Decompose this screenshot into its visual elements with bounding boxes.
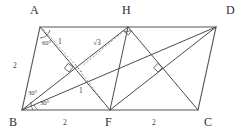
angle-label-hbf: 30° — [40, 100, 49, 107]
vertex-label-f: F — [105, 116, 112, 128]
right-angle-mark-h-cap — [124, 31, 131, 32]
measure-label-perp-a: 1 — [58, 38, 62, 46]
vertex-label-d: D — [226, 4, 235, 16]
geometry-figure: A D B C H F 2 2 2 1 1 √3 60° 30° 30° — [0, 0, 244, 137]
measure-label-perp-f: 1 — [79, 87, 83, 95]
vertex-label-a: A — [30, 4, 39, 16]
angle-arc-b-lower — [34, 105, 38, 110]
vertex-label-h: H — [122, 4, 131, 16]
angle-label-abh: 30° — [28, 90, 37, 97]
measure-label-bf: 2 — [63, 119, 67, 127]
vertex-label-b: B — [9, 116, 17, 128]
measure-label-ab: 2 — [13, 62, 17, 70]
angle-label-a: 60° — [42, 40, 51, 47]
dashed-line-from-h — [82, 30, 125, 66]
segment-bh — [22, 27, 128, 110]
vertex-label-c: C — [204, 116, 212, 128]
measure-label-fc: 2 — [152, 119, 156, 127]
measure-label-altitude: √3 — [93, 39, 101, 47]
right-angle-mark-right — [154, 63, 163, 72]
